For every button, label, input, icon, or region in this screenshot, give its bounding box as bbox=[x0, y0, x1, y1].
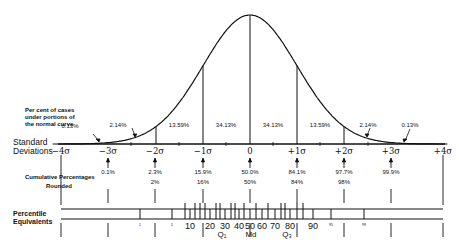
sd-label-5: +1σ bbox=[288, 146, 306, 156]
percentile-label-7: 60 bbox=[257, 221, 267, 231]
area-percent-3: 34.13% bbox=[216, 122, 236, 128]
sd-label-4: 0 bbox=[247, 146, 252, 156]
rounded-label-3: 84% bbox=[291, 179, 303, 185]
sd-label-3: −1σ bbox=[194, 146, 212, 156]
sd-label-1: −3σ bbox=[99, 146, 117, 156]
percentile-label-1: 5 bbox=[171, 223, 173, 227]
percentile-row-label-line1: Percentile bbox=[13, 210, 52, 218]
sd-label-6: +2σ bbox=[335, 146, 353, 156]
percentile-label-5: 40 bbox=[234, 221, 244, 231]
percentile-row-label-line2: Equivalents bbox=[13, 218, 52, 226]
percentile-label-0: 1 bbox=[139, 223, 141, 227]
cumulative-label-6: 99.9% bbox=[382, 169, 399, 175]
cumulative-label-0: 0.1% bbox=[101, 169, 115, 175]
area-percent-6: 2.14% bbox=[359, 122, 376, 128]
sd-label-2: −2σ bbox=[146, 146, 164, 156]
percentile-label-11: 95 bbox=[329, 223, 333, 227]
sd-label-0: −4σ bbox=[52, 146, 70, 156]
area-percent-5: 13.59% bbox=[310, 122, 330, 128]
cumulative-label-1: 2.3% bbox=[148, 169, 162, 175]
rounded-row-label: Rounded bbox=[46, 183, 72, 190]
percentile-label-3: 20 bbox=[205, 221, 215, 231]
sd-label-7: +3σ bbox=[382, 146, 400, 156]
area-row-label-line1: Per cent of cases bbox=[25, 107, 75, 114]
sd-label-8: +4σ bbox=[434, 146, 452, 156]
cumulative-label-2: 15.9% bbox=[194, 169, 211, 175]
percentile-ticks bbox=[140, 203, 364, 219]
cumulative-label-4: 84.1% bbox=[288, 169, 305, 175]
quartile-label-0: Q₁ bbox=[218, 230, 227, 239]
sd-row-label: Standard Deviations bbox=[13, 138, 53, 156]
rounded-label-0: 2% bbox=[151, 179, 160, 185]
area-percent-4: 34.13% bbox=[263, 122, 283, 128]
cumulative-label-5: 97.7% bbox=[335, 169, 352, 175]
cumulative-row-label: Cumulative Percentages bbox=[25, 174, 95, 181]
area-percent-0: 0.13% bbox=[61, 123, 78, 129]
percentile-label-10: 90 bbox=[308, 221, 318, 231]
percentile-label-8: 70 bbox=[270, 221, 280, 231]
area-percent-1: 2.14% bbox=[109, 122, 126, 128]
percentile-label-2: 10 bbox=[185, 221, 195, 231]
area-percent-7: 0.13% bbox=[401, 122, 418, 128]
percentile-row-label: Percentile Equivalents bbox=[13, 210, 52, 226]
percentile-label-12: 99 bbox=[362, 223, 366, 227]
quartile-label-1: Md bbox=[245, 230, 256, 239]
rounded-label-4: 98% bbox=[338, 179, 350, 185]
cumulative-arrows bbox=[107, 158, 393, 168]
sd-row-label-line2: Deviations bbox=[13, 147, 53, 156]
rounded-label-2: 50% bbox=[244, 179, 256, 185]
area-row-label-line2: under portions of bbox=[25, 114, 75, 121]
rounded-label-1: 16% bbox=[197, 179, 209, 185]
cumulative-label-3: 50.0% bbox=[241, 169, 258, 175]
area-percent-2: 13.59% bbox=[169, 122, 189, 128]
quartile-label-2: Q₃ bbox=[282, 230, 291, 239]
